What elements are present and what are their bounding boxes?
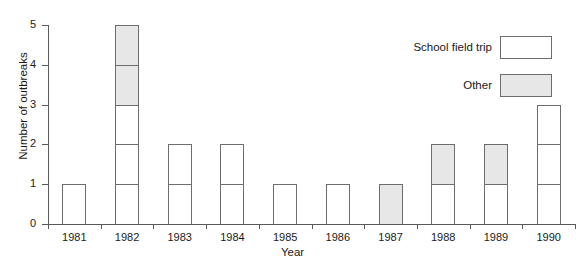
bar-segment-1988-other xyxy=(431,144,455,185)
chart-legend: School field trip Other xyxy=(392,36,552,112)
x-tick-boundary-1 xyxy=(101,224,102,229)
bar-segment-1989-other xyxy=(484,144,508,185)
bar-segment-1982-other xyxy=(115,25,139,66)
legend-item-other: Other xyxy=(392,74,552,98)
y-tick-label-2: 2 xyxy=(8,138,36,149)
x-tick-boundary-8 xyxy=(470,224,471,229)
x-tick-label-1985: 1985 xyxy=(255,232,315,243)
legend-label-other: Other xyxy=(463,79,492,91)
bar-segment-1987-other xyxy=(379,184,403,225)
legend-item-school-field-trip: School field trip xyxy=(392,36,552,60)
x-tick-boundary-0 xyxy=(48,224,49,229)
x-tick-boundary-9 xyxy=(522,224,523,229)
y-tick-label-5: 5 xyxy=(8,19,36,30)
x-axis-title: Year xyxy=(0,246,585,258)
y-tick-label-3: 3 xyxy=(8,99,36,110)
x-tick-label-1986: 1986 xyxy=(308,232,368,243)
x-tick-label-1983: 1983 xyxy=(150,232,210,243)
bar-segment-1981-school-field-trip xyxy=(62,184,86,225)
outbreaks-by-year-chart: Number of outbreaks 012345 1981198219831… xyxy=(0,0,585,263)
bar-segment-1984-school-field-trip xyxy=(220,144,244,185)
x-tick-boundary-7 xyxy=(417,224,418,229)
y-tick-5 xyxy=(42,25,48,26)
bar-segment-1990-school-field-trip xyxy=(537,184,561,225)
bar-segment-1984-school-field-trip xyxy=(220,184,244,225)
x-tick-label-1987: 1987 xyxy=(361,232,421,243)
x-tick-label-1989: 1989 xyxy=(466,232,526,243)
y-tick-label-0: 0 xyxy=(8,218,36,229)
y-axis-line xyxy=(48,25,49,225)
x-tick-label-1990: 1990 xyxy=(519,232,579,243)
y-tick-2 xyxy=(42,144,48,145)
x-tick-label-1984: 1984 xyxy=(202,232,262,243)
bar-segment-1982-other xyxy=(115,65,139,106)
bar-segment-1982-school-field-trip xyxy=(115,144,139,185)
bar-segment-1985-school-field-trip xyxy=(273,184,297,225)
legend-swatch-other xyxy=(500,74,552,97)
y-tick-label-4: 4 xyxy=(8,59,36,70)
y-tick-label-1: 1 xyxy=(8,178,36,189)
x-tick-boundary-4 xyxy=(259,224,260,229)
bar-segment-1988-school-field-trip xyxy=(431,184,455,225)
x-tick-label-1982: 1982 xyxy=(97,232,157,243)
bar-segment-1990-school-field-trip xyxy=(537,144,561,185)
bar-segment-1982-school-field-trip xyxy=(115,184,139,225)
x-tick-boundary-6 xyxy=(364,224,365,229)
x-tick-boundary-3 xyxy=(206,224,207,229)
x-tick-boundary-2 xyxy=(153,224,154,229)
y-axis-title-wrap: Number of outbreaks xyxy=(0,0,40,230)
x-tick-boundary-5 xyxy=(312,224,313,229)
y-tick-1 xyxy=(42,184,48,185)
legend-swatch-school-field-trip xyxy=(500,36,552,59)
bar-segment-1986-school-field-trip xyxy=(326,184,350,225)
bar-segment-1983-school-field-trip xyxy=(168,184,192,225)
bar-segment-1989-school-field-trip xyxy=(484,184,508,225)
legend-label-school-field-trip: School field trip xyxy=(413,41,492,53)
y-tick-4 xyxy=(42,65,48,66)
bar-segment-1983-school-field-trip xyxy=(168,144,192,185)
y-tick-3 xyxy=(42,105,48,106)
bar-segment-1982-school-field-trip xyxy=(115,105,139,146)
x-tick-label-1988: 1988 xyxy=(413,232,473,243)
x-tick-boundary-10 xyxy=(575,224,576,229)
x-tick-label-1981: 1981 xyxy=(44,232,104,243)
